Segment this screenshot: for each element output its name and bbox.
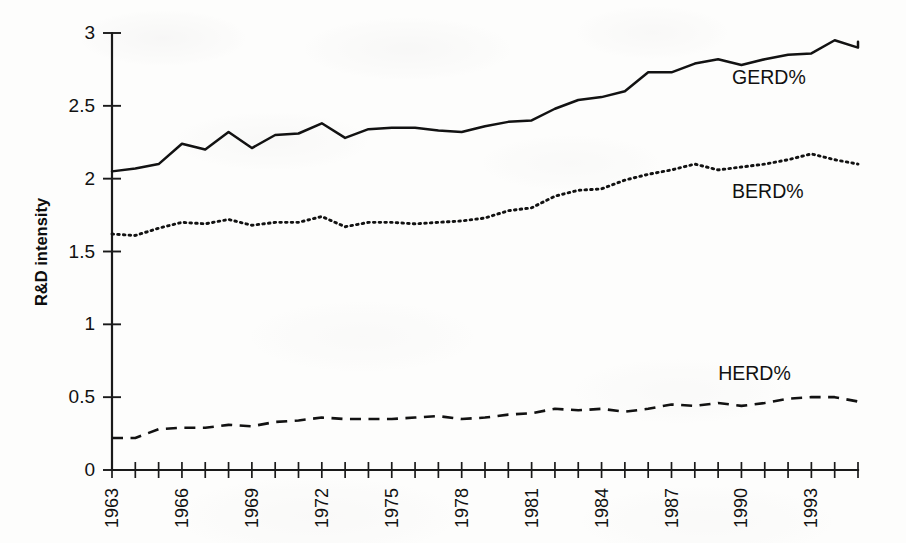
y-axis-tick-label: 1 (84, 313, 95, 334)
x-axis-tick-label: 1975 (382, 488, 402, 528)
series-label-gerd: GERD% (732, 66, 806, 88)
x-axis-tick-label: 1987 (662, 488, 682, 528)
y-axis-tick-label: 0 (84, 459, 95, 480)
y-axis-tick-label: 1.5 (69, 241, 95, 262)
x-axis-tick-label: 1984 (592, 488, 612, 528)
series-label-berd: BERD% (732, 180, 804, 202)
y-axis-title: R&D intensity (32, 197, 50, 306)
y-axis-tick-label: 2.5 (69, 95, 95, 116)
y-axis-tick-label: 3 (84, 22, 95, 43)
rd-intensity-line-chart: 00.511.522.53 19631966196919721975197819… (0, 0, 906, 543)
series-line-gerd (112, 40, 858, 171)
y-axis-tick-labels: 00.511.522.53 (69, 22, 95, 480)
x-axis-tick-labels: 1963196619691972197519781981198419871990… (102, 488, 821, 528)
chart-series-labels: GERD%BERD%HERD% (718, 66, 806, 384)
x-axis-tick-label: 1978 (452, 488, 472, 528)
y-axis-tick-label: 0.5 (69, 386, 95, 407)
series-line-herd (112, 397, 858, 438)
chart-page: 00.511.522.53 19631966196919721975197819… (0, 0, 906, 543)
x-axis-tick-label: 1963 (102, 488, 122, 528)
y-axis-tick-label: 2 (84, 168, 95, 189)
series-label-herd: HERD% (718, 362, 791, 384)
x-axis-tick-label: 1990 (731, 488, 751, 528)
x-axis-tick-label: 1966 (172, 488, 192, 528)
x-axis-tick-label: 1993 (801, 488, 821, 528)
x-axis-tick-label: 1972 (312, 488, 332, 528)
x-axis-tick-label: 1969 (242, 488, 262, 528)
x-axis-tick-label: 1981 (522, 488, 542, 528)
